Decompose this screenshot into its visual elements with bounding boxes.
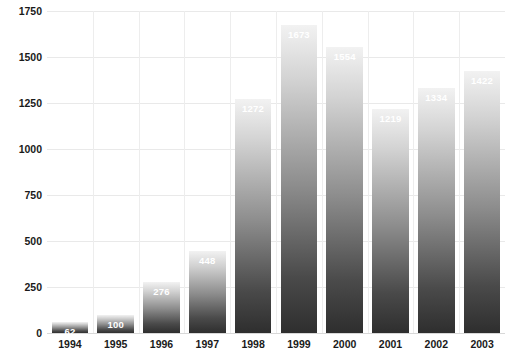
bar-value-label: 1334 xyxy=(418,92,455,103)
x-axis-tick-label: 1996 xyxy=(139,338,185,350)
bar[interactable]: 100 xyxy=(97,315,134,333)
category-separator xyxy=(322,11,323,333)
bar[interactable]: 1554 xyxy=(326,47,363,333)
category-separator xyxy=(230,11,231,333)
bar-value-label: 1554 xyxy=(326,51,363,62)
y-axis-tick-label: 0 xyxy=(2,327,42,339)
category-separator xyxy=(93,11,94,333)
bar[interactable]: 1422 xyxy=(464,71,501,333)
category-separator xyxy=(459,11,460,333)
category-separator xyxy=(184,11,185,333)
x-axis-tick-label: 1995 xyxy=(93,338,139,350)
x-axis-tick-label: 1997 xyxy=(184,338,230,350)
bar-value-label: 1422 xyxy=(464,75,501,86)
y-axis-tick-label: 750 xyxy=(2,189,42,201)
category-separator xyxy=(368,11,369,333)
bar-value-label: 1219 xyxy=(372,113,409,124)
category-separator xyxy=(413,11,414,333)
y-axis-tick-label: 1000 xyxy=(2,143,42,155)
y-axis-tick-label: 1250 xyxy=(2,97,42,109)
bar-value-label: 276 xyxy=(143,286,180,297)
bar-value-label: 448 xyxy=(189,255,226,266)
bar[interactable]: 1272 xyxy=(235,99,272,333)
category-separator xyxy=(139,11,140,333)
x-axis-tick-label: 2000 xyxy=(322,338,368,350)
gridline xyxy=(47,333,505,334)
bar-value-label: 1673 xyxy=(281,29,318,40)
bar-value-label: 1272 xyxy=(235,103,272,114)
y-axis-tick-label: 500 xyxy=(2,235,42,247)
bar[interactable]: 448 xyxy=(189,251,226,333)
y-axis-tick-label: 250 xyxy=(2,281,42,293)
bar[interactable]: 1334 xyxy=(418,88,455,333)
y-axis-tick-label: 1750 xyxy=(2,5,42,17)
bar-value-label: 100 xyxy=(97,319,134,330)
plot-area: 62100276448127216731554121913341422 xyxy=(47,11,505,333)
bar[interactable]: 1219 xyxy=(372,109,409,333)
x-axis-tick-label: 1994 xyxy=(47,338,93,350)
category-separator xyxy=(276,11,277,333)
bar[interactable]: 62 xyxy=(52,322,89,333)
x-axis-tick-label: 2001 xyxy=(368,338,414,350)
bar-chart: 62100276448127216731554121913341422 0250… xyxy=(0,0,505,357)
x-axis-tick-label: 2002 xyxy=(413,338,459,350)
bar-value-label: 62 xyxy=(52,326,89,337)
x-axis-tick-label: 1998 xyxy=(230,338,276,350)
y-axis-tick-label: 1500 xyxy=(2,51,42,63)
bar[interactable]: 276 xyxy=(143,282,180,333)
x-axis-tick-label: 2003 xyxy=(459,338,505,350)
x-axis-tick-label: 1999 xyxy=(276,338,322,350)
bar[interactable]: 1673 xyxy=(281,25,318,333)
